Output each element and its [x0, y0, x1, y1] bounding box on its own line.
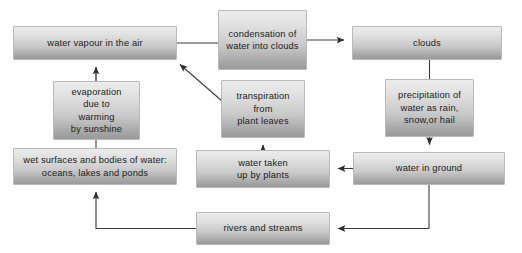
connector-ground-to-rivers [338, 185, 429, 229]
node-water-taken-up-by-plants[interactable]: water taken up by plants [196, 150, 330, 188]
node-evaporation[interactable]: evaporation due to warming by sunshine [53, 81, 140, 140]
node-precipitation[interactable]: precipitation of water as rain, snow,or … [385, 79, 474, 137]
node-rivers-and-streams[interactable]: rivers and streams [196, 212, 330, 245]
node-clouds[interactable]: clouds [352, 26, 502, 60]
node-transpiration[interactable]: transpiration from plant leaves [221, 80, 305, 138]
connector-transpiration-to-vapour [180, 65, 222, 102]
connector-rivers-to-wet-surfaces [96, 192, 196, 229]
node-condensation[interactable]: condensation of water into clouds [218, 10, 307, 70]
node-water-vapour[interactable]: water vapour in the air [13, 26, 177, 60]
water-cycle-diagram: water vapour in the air condensation of … [0, 0, 522, 253]
node-water-in-ground[interactable]: water in ground [353, 152, 505, 185]
node-wet-surfaces[interactable]: wet surfaces and bodies of water: oceans… [13, 148, 177, 185]
